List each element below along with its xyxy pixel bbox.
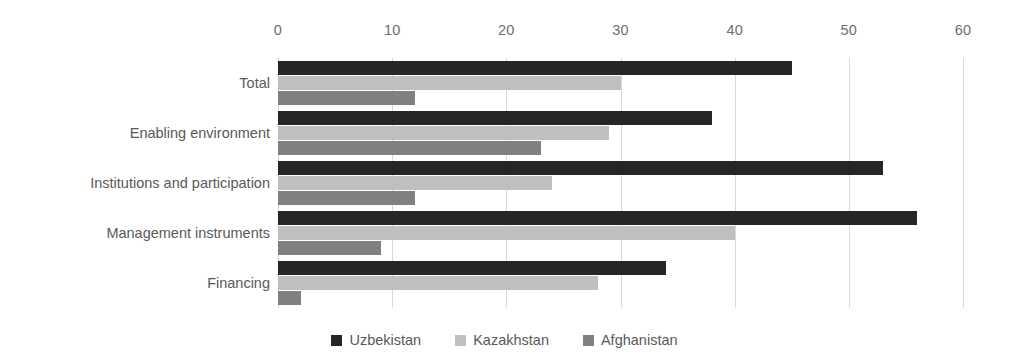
bar-kazakhstan-total [278,76,621,90]
bar-afghanistan-enabling-environment [278,141,541,155]
y-axis-label-financing: Financing [2,275,270,291]
x-axis-tick-labels: 0102030405060 [278,22,963,46]
legend-item-kazakhstan[interactable]: Kazakhstan [455,332,549,348]
x-axis-tick-label: 10 [384,22,401,38]
x-axis-tick-label: 30 [612,22,629,38]
bar-group [278,158,963,208]
bar-uzbekistan-management-instruments [278,211,917,225]
legend-label: Kazakhstan [473,332,549,348]
y-axis-label-total: Total [2,75,270,91]
bar-kazakhstan-enabling-environment [278,126,609,140]
legend-swatch-icon [331,335,342,346]
bar-afghanistan-total [278,91,415,105]
legend-label: Uzbekistan [349,332,421,348]
x-axis-tick-label: 20 [498,22,515,38]
bar-uzbekistan-financing [278,261,666,275]
bar-afghanistan-institutions-and-participation [278,191,415,205]
legend-swatch-icon [455,335,466,346]
gridline [963,58,964,308]
y-axis-label-institutions-and-participation: Institutions and participation [2,175,270,191]
x-axis-tick-label: 60 [955,22,972,38]
x-axis-tick-label: 50 [841,22,858,38]
bar-kazakhstan-management-instruments [278,226,735,240]
bar-group [278,208,963,258]
bar-afghanistan-management-instruments [278,241,381,255]
y-axis-label-enabling-environment: Enabling environment [2,125,270,141]
bar-afghanistan-financing [278,291,301,305]
bar-group [278,58,963,108]
plot-area [278,58,963,308]
bar-uzbekistan-total [278,61,792,75]
legend-item-afghanistan[interactable]: Afghanistan [583,332,678,348]
bar-kazakhstan-financing [278,276,598,290]
bar-group [278,108,963,158]
bar-group [278,258,963,308]
bar-chart: 0102030405060 TotalEnabling environmentI… [0,0,1009,364]
chart-legend: UzbekistanKazakhstanAfghanistan [0,332,1009,348]
legend-item-uzbekistan[interactable]: Uzbekistan [331,332,421,348]
bar-uzbekistan-enabling-environment [278,111,712,125]
bar-uzbekistan-institutions-and-participation [278,161,883,175]
y-axis-label-management-instruments: Management instruments [2,225,270,241]
bar-kazakhstan-institutions-and-participation [278,176,552,190]
x-axis-tick-label: 0 [274,22,282,38]
legend-label: Afghanistan [601,332,678,348]
legend-swatch-icon [583,335,594,346]
x-axis-tick-label: 40 [726,22,743,38]
y-axis-category-labels: TotalEnabling environmentInstitutions an… [0,58,270,308]
